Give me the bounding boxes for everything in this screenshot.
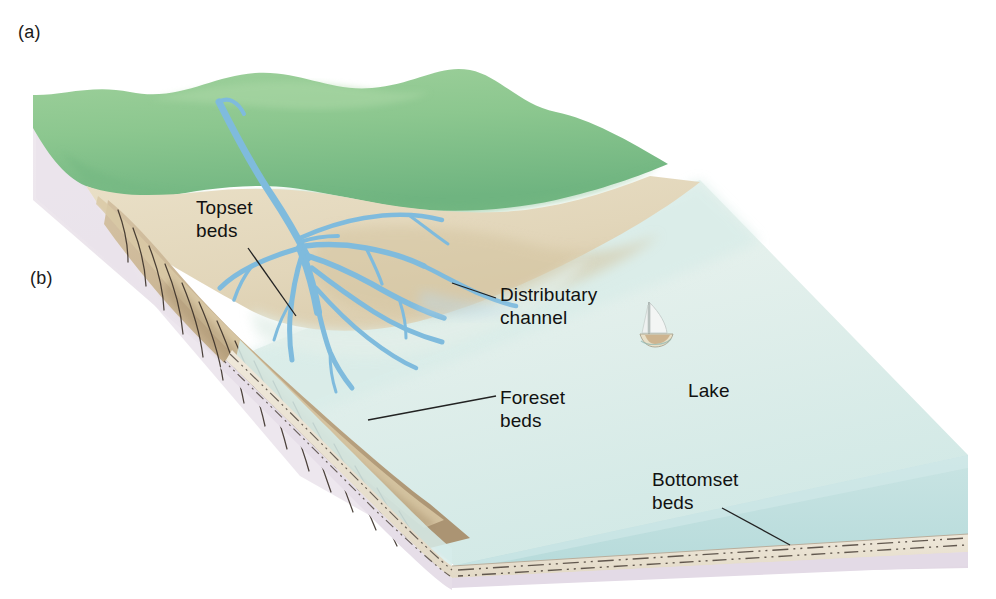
- delta-block-diagram: [0, 0, 996, 599]
- vegetated-highland: [33, 69, 668, 215]
- label-topset-beds: Topset beds: [196, 196, 253, 242]
- label-foreset-beds: Foreset beds: [500, 386, 565, 432]
- label-bottomset-beds: Bottomset beds: [652, 468, 738, 514]
- label-distributary-channel: Distributary channel: [500, 283, 597, 329]
- label-lake: Lake: [688, 379, 730, 402]
- figure-container: (a) (b): [0, 0, 996, 599]
